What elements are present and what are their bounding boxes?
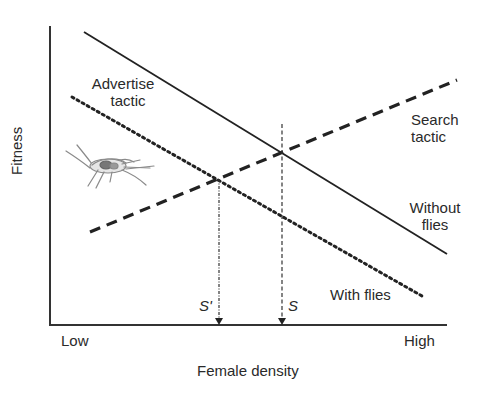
with-flies-line bbox=[72, 97, 422, 296]
s-prime-label: S' bbox=[199, 297, 212, 314]
advertise-tactic-label: Advertise tactic bbox=[83, 75, 163, 109]
s-label: S bbox=[288, 297, 298, 314]
s-prime-arrow-icon bbox=[215, 318, 223, 325]
advertise-label-line1: Advertise bbox=[83, 75, 163, 92]
with-flies-label: With flies bbox=[330, 286, 391, 303]
without-flies-line2: flies bbox=[405, 216, 465, 233]
search-tactic-label: Search tactic bbox=[411, 111, 459, 145]
x-high-label: High bbox=[404, 332, 435, 349]
search-label-line1: Search bbox=[411, 111, 459, 128]
y-axis-label: Fitness bbox=[8, 127, 25, 175]
without-flies-line1: Without bbox=[405, 199, 465, 216]
search-label-line2: tactic bbox=[411, 128, 459, 145]
s-arrow-icon bbox=[278, 318, 286, 325]
x-axis-label: Female density bbox=[197, 362, 299, 379]
cricket-icon bbox=[66, 145, 154, 188]
advertise-label-line2: tactic bbox=[83, 92, 163, 109]
without-flies-label: Without flies bbox=[405, 199, 465, 233]
x-low-label: Low bbox=[61, 332, 89, 349]
without-flies-line bbox=[84, 32, 447, 254]
